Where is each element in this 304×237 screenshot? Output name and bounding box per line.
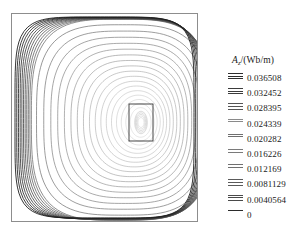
legend-label: 0.016226 [247,149,282,159]
legend-swatch-icon [228,119,243,132]
legend-tick-line [228,91,243,92]
legend-swatch-icon [228,134,243,147]
legend-title-unit: /(Wb/m) [241,55,274,65]
legend-tick-line [228,167,243,168]
legend-tick-line [228,93,243,94]
legend-tick-line [228,109,243,110]
legend-tick-line [228,182,243,183]
legend-label: 0.028395 [247,103,282,113]
legend-tick-line [228,164,243,165]
contour-line [15,17,194,218]
legend-row: 0.0081129 [224,178,304,193]
legend-row: 0.032452 [224,87,304,102]
legend-row: 0 [224,209,304,224]
legend-tick-line [228,210,243,211]
legend-tick-line [228,106,243,107]
legend-tick-line [228,197,243,198]
legend: Az/(Wb/m) 0.0365080.0324520.0283950.0243… [224,55,304,230]
legend-tick-line [228,73,243,74]
legend-tick-line [228,78,243,79]
legend-tick-line [228,195,243,196]
legend-swatch-icon [228,73,243,86]
legend-label: 0.0081129 [247,179,286,189]
contour-line [22,18,197,219]
legend-label: 0.024339 [247,119,282,129]
conductor-rectangle [129,104,153,141]
contour-line [111,91,163,154]
legend-swatch-icon [228,149,243,162]
legend-swatch-icon [228,88,243,101]
legend-tick-line [228,152,243,153]
legend-tick-line [228,121,243,122]
legend-tick-line [228,119,243,120]
conductor-inner-contour [137,116,145,129]
legend-label: 0.032452 [247,88,282,98]
legend-tick-line [228,179,243,180]
legend-label: 0.0040564 [247,195,286,205]
legend-tick-line [228,76,243,77]
conductor-inner-contour [138,118,144,128]
legend-row: 0.0040564 [224,194,304,209]
contour-line [27,19,197,220]
legend-tick-line [228,136,243,137]
legend-row: 0.028395 [224,102,304,117]
legend-swatch-icon [228,164,243,177]
contour-line [28,19,197,220]
legend-entries: 0.0365080.0324520.0283950.0243390.020282… [224,72,304,224]
contour-line [83,66,180,177]
contour-line [30,19,197,220]
legend-tick-line [228,200,243,201]
legend-row: 0.024339 [224,118,304,133]
legend-tick-line [228,185,243,186]
contour-line [121,100,157,146]
legend-swatch-icon [228,210,243,223]
contour-line [18,17,197,218]
contour-line [130,108,151,138]
contour-line [44,31,197,209]
legend-label: 0.036508 [247,73,282,83]
legend-label: 0.012169 [247,164,282,174]
legend-tick-line [228,103,243,104]
contour-plot-panel [11,13,198,222]
legend-row: 0.016226 [224,148,304,163]
legend-title: Az/(Wb/m) [232,55,274,66]
legend-row: 0.020282 [224,133,304,148]
legend-tick-line [228,88,243,89]
contour-line [58,43,196,197]
figure-root: Az/(Wb/m) 0.0365080.0324520.0283950.0243… [0,0,304,237]
legend-row: 0.036508 [224,72,304,87]
legend-label: 0 [247,210,252,220]
legend-swatch-icon [228,179,243,192]
legend-swatch-icon [228,103,243,116]
legend-swatch-icon [228,195,243,208]
contour-lines [12,14,197,221]
legend-tick-line [228,149,243,150]
legend-tick-line [228,134,243,135]
legend-row: 0.012169 [224,163,304,178]
legend-label: 0.020282 [247,134,282,144]
conductor-inner-contour [136,114,145,130]
